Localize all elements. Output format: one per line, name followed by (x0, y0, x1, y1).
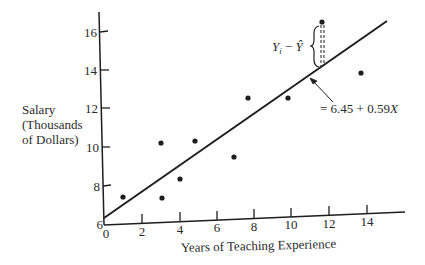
x-tick-0: 0 (103, 226, 110, 241)
data-point (192, 138, 197, 143)
brace-icon (311, 26, 319, 67)
y-tick-10: 10 (86, 140, 99, 155)
data-point (158, 140, 163, 145)
data-point (159, 195, 164, 200)
x-tick-6: 6 (214, 220, 221, 235)
x-tick-8: 8 (251, 219, 258, 234)
regression-equation: = 6.45 + 0.59X (320, 101, 399, 116)
x-tick-4: 4 (177, 222, 184, 237)
scatter-chart: 16 14 12 10 8 6 0 2 4 6 8 10 12 14 Salar… (0, 0, 425, 265)
y-tick-16: 16 (84, 25, 98, 40)
data-point (285, 95, 290, 100)
data-point (231, 154, 236, 159)
x-tick-12: 12 (323, 216, 336, 231)
y-tick-12: 12 (85, 101, 98, 116)
svg-text:of Dollars): of Dollars) (22, 132, 79, 147)
svg-text:Salary: Salary (22, 102, 56, 117)
x-tick-2: 2 (139, 224, 146, 239)
data-point (245, 95, 250, 100)
equation-arrow (310, 78, 333, 102)
x-tick-10: 10 (285, 217, 298, 232)
y-tick-14: 14 (84, 63, 98, 78)
residual-marker (311, 25, 324, 68)
data-point (319, 19, 324, 24)
x-axis-label: Years of Teaching Experience (181, 236, 337, 255)
residual-label: Yi − Ŷ (272, 39, 305, 56)
y-axis-label: Salary (Thousands of Dollars) (22, 102, 83, 147)
data-point (177, 176, 182, 181)
regression-line (104, 21, 387, 218)
data-point (120, 194, 125, 199)
x-tick-14: 14 (361, 214, 375, 229)
y-tick-8: 8 (94, 179, 101, 194)
svg-text:(Thousands: (Thousands (22, 117, 83, 132)
data-point (358, 70, 363, 75)
